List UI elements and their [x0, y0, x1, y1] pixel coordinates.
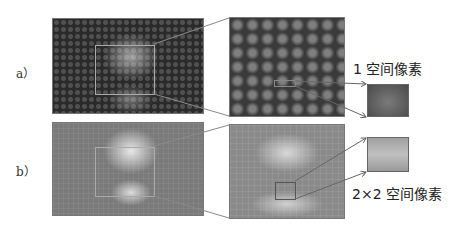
connector-lines: [0, 0, 469, 231]
